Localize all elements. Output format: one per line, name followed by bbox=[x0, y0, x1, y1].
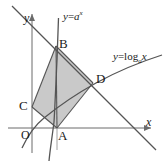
math-figure: x y O B D C A y=ax y=logax bbox=[0, 0, 167, 164]
log-arg: x bbox=[142, 50, 147, 62]
point-label-C: C bbox=[19, 99, 28, 112]
exponential-curve-label: y=ax bbox=[63, 10, 83, 22]
point-label-A: A bbox=[58, 129, 67, 142]
exp-exponent: x bbox=[80, 9, 83, 17]
shaded-quadrilateral bbox=[56, 46, 93, 128]
x-axis-label: x bbox=[146, 116, 151, 128]
y-axis-arrow bbox=[29, 14, 35, 21]
y-axis-label: y bbox=[24, 12, 29, 24]
point-label-B: B bbox=[59, 37, 68, 50]
point-label-D: D bbox=[96, 72, 105, 85]
origin-label: O bbox=[21, 129, 30, 141]
log-fn: log bbox=[124, 50, 138, 62]
shaded-quadrilateral-left bbox=[32, 46, 57, 128]
logarithmic-curve-label: y=logax bbox=[113, 51, 147, 65]
